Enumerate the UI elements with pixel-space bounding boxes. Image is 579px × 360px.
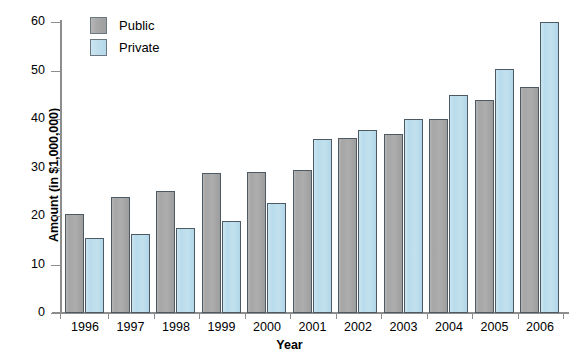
bar-private-1999 xyxy=(222,221,241,313)
x-tick-label: 2001 xyxy=(290,320,336,334)
bar-public-1996 xyxy=(65,214,84,313)
y-tick: 0 xyxy=(51,313,60,314)
y-tick-label: 60 xyxy=(31,14,45,28)
bar-public-1999 xyxy=(202,173,221,313)
y-tick-label: 30 xyxy=(31,160,45,174)
bar-group xyxy=(202,22,242,313)
y-tick: 50 xyxy=(51,71,60,72)
x-tick-label: 1996 xyxy=(62,320,108,334)
bar-private-2002 xyxy=(358,130,377,313)
x-tick-label: 2002 xyxy=(335,320,381,334)
bar-group xyxy=(156,22,196,313)
x-tick xyxy=(245,313,246,319)
bar-public-1998 xyxy=(156,191,175,313)
legend-label-private: Private xyxy=(119,40,159,55)
x-tick xyxy=(108,313,109,319)
bar-private-2003 xyxy=(404,119,423,313)
x-tick xyxy=(518,313,519,319)
x-tick xyxy=(60,313,61,319)
legend-swatch-private-icon xyxy=(90,39,107,56)
bar-group xyxy=(520,22,560,313)
bar-public-2005 xyxy=(475,100,494,313)
bar-group xyxy=(65,22,105,313)
bar-public-2001 xyxy=(293,170,312,313)
y-tick: 10 xyxy=(51,265,60,266)
bar-private-2000 xyxy=(267,203,286,313)
y-tick: 60 xyxy=(51,22,60,23)
bar-private-2006 xyxy=(540,22,559,313)
y-tick-label: 50 xyxy=(31,63,45,77)
bar-private-2001 xyxy=(313,139,332,313)
x-tick-label: 1999 xyxy=(199,320,245,334)
y-tick-label: 0 xyxy=(38,305,45,319)
x-tick xyxy=(381,313,382,319)
bar-public-1997 xyxy=(111,197,130,313)
legend-label-public: Public xyxy=(119,18,154,33)
x-tick xyxy=(427,313,428,319)
x-tick xyxy=(336,313,337,319)
bar-public-2004 xyxy=(429,119,448,313)
x-tick-label: 2003 xyxy=(381,320,427,334)
bar-public-2006 xyxy=(520,87,539,313)
x-tick-label: 1997 xyxy=(108,320,154,334)
x-tick xyxy=(154,313,155,319)
bar-group xyxy=(338,22,378,313)
y-tick-label: 20 xyxy=(31,208,45,222)
x-tick-label: 2006 xyxy=(517,320,563,334)
bar-chart: Amount (in $1,000,000) 0102030405060 199… xyxy=(0,0,579,360)
y-tick: 30 xyxy=(51,168,60,169)
bar-group xyxy=(111,22,151,313)
x-tick-label: 2004 xyxy=(426,320,472,334)
x-tick xyxy=(472,313,473,319)
chart-legend: Public Private xyxy=(90,14,159,58)
bar-private-2004 xyxy=(449,95,468,313)
bar-private-1996 xyxy=(85,238,104,313)
y-tick: 20 xyxy=(51,216,60,217)
bar-group xyxy=(429,22,469,313)
legend-swatch-public-icon xyxy=(90,17,107,34)
y-tick-label: 40 xyxy=(31,111,45,125)
bar-group xyxy=(293,22,333,313)
x-tick xyxy=(290,313,291,319)
bar-public-2000 xyxy=(247,172,266,313)
legend-item-private: Private xyxy=(90,36,159,58)
bar-private-1997 xyxy=(131,234,150,313)
bar-private-2005 xyxy=(495,69,514,313)
x-tick-label: 1998 xyxy=(153,320,199,334)
legend-item-public: Public xyxy=(90,14,159,36)
bar-group xyxy=(475,22,515,313)
bar-private-1998 xyxy=(176,228,195,313)
x-tick xyxy=(199,313,200,319)
bar-public-2002 xyxy=(338,138,357,313)
y-tick: 40 xyxy=(51,119,60,120)
y-tick-label: 10 xyxy=(31,257,45,271)
bar-public-2003 xyxy=(384,134,403,313)
bar-group xyxy=(384,22,424,313)
bar-group xyxy=(247,22,287,313)
x-tick-label: 2000 xyxy=(244,320,290,334)
plot-area xyxy=(61,22,567,313)
x-tick-label: 2005 xyxy=(472,320,518,334)
x-tick xyxy=(563,313,564,319)
x-axis-title: Year xyxy=(0,338,579,352)
